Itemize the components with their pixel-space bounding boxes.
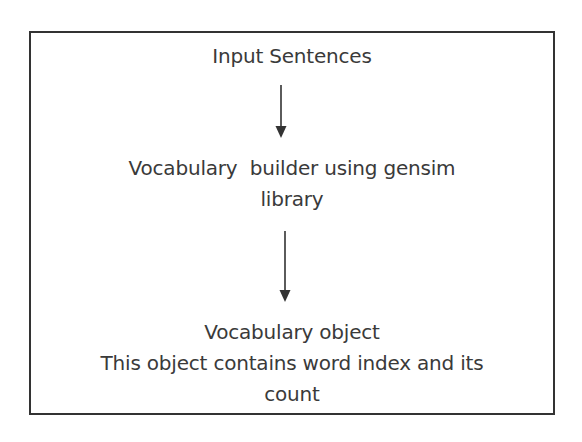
arrow-down-icon <box>277 230 293 304</box>
node-vocabulary-object-line-2: This object contains word index and its <box>31 348 553 379</box>
node-vocabulary-builder: Vocabulary builder using gensim library <box>31 153 553 215</box>
node-vocabulary-object: Vocabulary object This object contains w… <box>31 317 553 410</box>
node-vocabulary-builder-line-1: Vocabulary builder using gensim <box>31 153 553 184</box>
node-input-sentences: Input Sentences <box>31 41 553 72</box>
node-input-sentences-label: Input Sentences <box>31 41 553 72</box>
diagram-frame: Input Sentences Vocabulary builder using… <box>29 31 555 415</box>
edge-builder-to-output-head <box>280 290 291 302</box>
edge-input-to-builder-head <box>276 126 287 138</box>
node-vocabulary-object-line-3: count <box>31 379 553 410</box>
node-vocabulary-builder-line-2: library <box>31 184 553 215</box>
arrow-down-icon <box>273 84 289 140</box>
node-vocabulary-object-line-1: Vocabulary object <box>31 317 553 348</box>
